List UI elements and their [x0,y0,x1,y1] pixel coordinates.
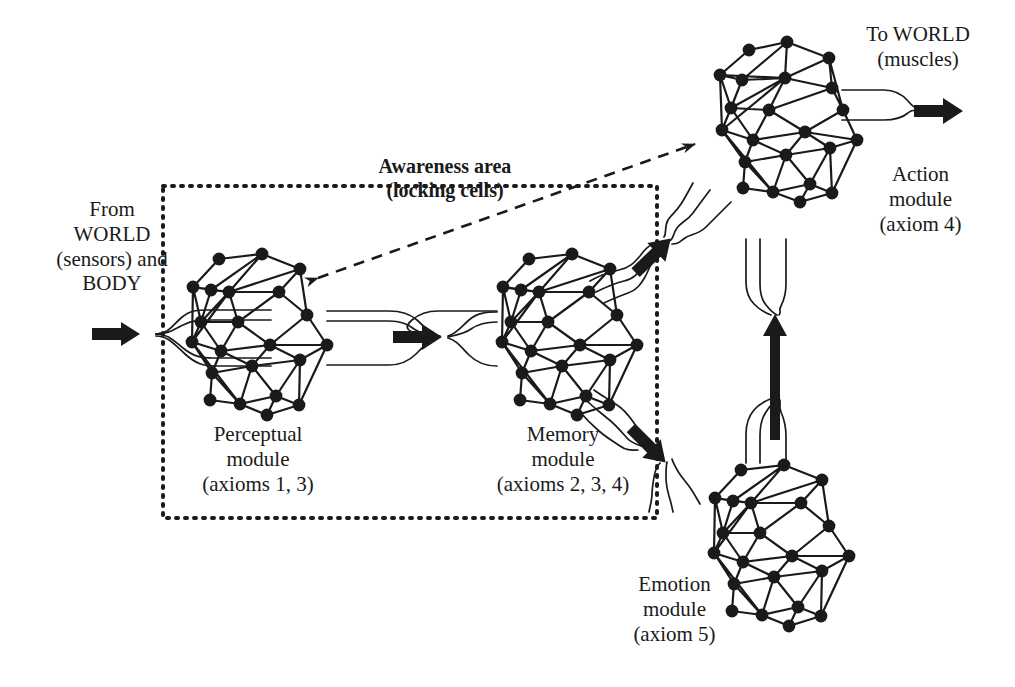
input-source-label: From WORLD (sensors) and BODY [27,197,197,296]
input-source-line1: From [27,197,197,222]
awareness-area-label-line2: (locking cells) [330,179,560,203]
input-source-line2: WORLD [27,222,197,247]
output-target-label: To WORLD (muscles) [838,22,998,72]
module-label-perceptual-axioms: (axioms 1, 3) [168,472,348,497]
arrow-action-output [914,98,963,124]
module-label-action-line2: module [843,187,998,212]
module-perceptual-nodes [186,248,334,422]
module-label-emotion-line2: module [592,597,757,622]
awareness-area-label-line1: Awareness area [330,155,560,179]
module-perceptual-network[interactable] [186,248,334,422]
module-label-action-axioms: (axiom 4) [843,212,998,237]
output-target-line1: To WORLD [838,22,998,47]
module-label-memory-line1: Memory [468,422,658,447]
arrow-perceptual-memory [393,324,442,350]
output-target-line2: (muscles) [838,47,998,72]
input-source-line3: (sensors) and [27,247,197,272]
arrow-memory-action [627,229,680,282]
module-memory-nodes [496,248,644,422]
diagram-canvas: Awareness area (locking cells) From WORL… [0,0,1015,687]
module-label-memory-axioms: (axioms 2, 3, 4) [468,472,658,497]
module-label-action: Action module (axiom 4) [843,162,998,236]
input-source-line4: BODY [27,271,197,296]
awareness-area-label: Awareness area (locking cells) [330,155,560,202]
module-label-perceptual-line1: Perceptual [168,422,348,447]
module-label-memory: Memory module (axioms 2, 3, 4) [468,422,658,496]
bundle-world-to-perceptual [156,310,271,366]
arrow-world-input [92,322,140,346]
module-label-emotion-axioms: (axiom 5) [592,622,757,647]
module-label-emotion-line1: Emotion [592,572,757,597]
module-memory-network[interactable] [496,248,644,422]
module-label-memory-line2: module [468,447,658,472]
module-label-action-line1: Action [843,162,998,187]
architecture-svg [0,0,1015,687]
bundle-action-to-world [842,90,922,120]
module-label-perceptual: Perceptual module (axioms 1, 3) [168,422,348,496]
module-label-perceptual-line2: module [168,447,348,472]
module-label-emotion: Emotion module (axiom 5) [592,572,757,646]
